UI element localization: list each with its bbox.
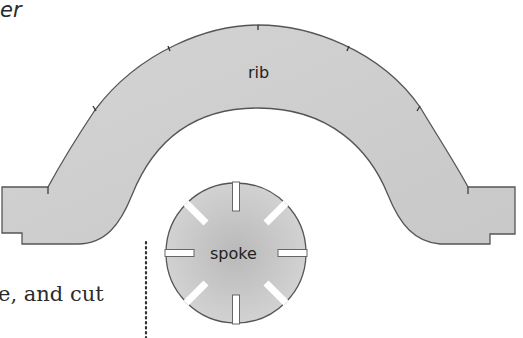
text-fragment-body: e, and cut — [0, 282, 104, 306]
spoke-part: spoke — [165, 182, 307, 324]
rib-label: rib — [248, 63, 269, 82]
spoke-label: spoke — [210, 244, 257, 263]
